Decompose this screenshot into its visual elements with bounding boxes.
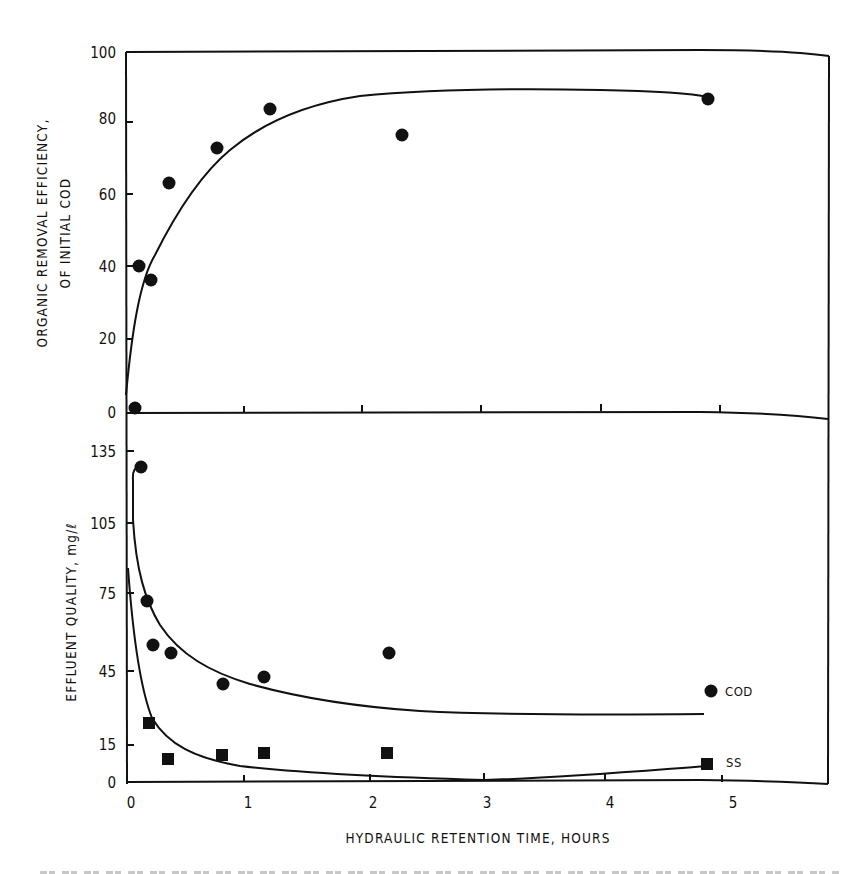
tick-label: 20 bbox=[99, 330, 116, 348]
ss-point bbox=[143, 717, 155, 729]
right-border bbox=[828, 56, 829, 784]
data-point bbox=[163, 177, 176, 190]
chart-frame bbox=[126, 50, 829, 784]
cod-point bbox=[147, 639, 160, 652]
tick-label: 60 bbox=[99, 186, 116, 204]
x-tick-labels: 0 1 2 3 4 5 bbox=[127, 794, 738, 812]
data-point bbox=[702, 93, 715, 106]
cod-data-points bbox=[135, 461, 718, 698]
cod-point bbox=[165, 647, 178, 660]
cod-point bbox=[258, 671, 271, 684]
tick-label: 1 bbox=[244, 794, 253, 812]
tick-label: 4 bbox=[606, 794, 615, 812]
tick-label: 75 bbox=[99, 585, 116, 603]
cod-point bbox=[141, 595, 154, 608]
data-point bbox=[133, 260, 146, 273]
tick-label: 80 bbox=[99, 110, 116, 128]
ss-series-label: SS bbox=[726, 755, 742, 770]
top-y-tick-labels: 0 20 40 60 80 100 bbox=[90, 44, 116, 422]
ss-point bbox=[162, 753, 174, 765]
tick-label: 45 bbox=[99, 663, 116, 681]
x-axis-title: HYDRAULIC RETENTION TIME, HOURS bbox=[345, 830, 610, 846]
top-y-axis-title-line1: ORGANIC REMOVAL EFFICIENCY, bbox=[34, 119, 50, 348]
top-y-axis-title-line2: OF INITIAL COD bbox=[57, 178, 73, 289]
data-point bbox=[211, 142, 224, 155]
chart-figure: 0 20 40 60 80 100 ORGANIC REMOVAL EFFICI… bbox=[0, 0, 856, 874]
ss-fitted-curve bbox=[128, 568, 707, 780]
cod-fitted-curve bbox=[133, 467, 704, 715]
ss-point bbox=[216, 749, 228, 761]
tick-label: 0 bbox=[107, 774, 116, 792]
cod-point bbox=[135, 461, 148, 474]
tick-label: 2 bbox=[369, 794, 378, 812]
cod-point bbox=[217, 678, 230, 691]
data-point bbox=[145, 274, 158, 287]
ss-point bbox=[258, 747, 270, 759]
tick-label: 15 bbox=[99, 736, 116, 754]
bottom-y-tick-labels: 0 15 45 75 105 135 bbox=[90, 443, 116, 792]
tick-label: 100 bbox=[90, 44, 116, 62]
tick-label: 5 bbox=[729, 794, 738, 812]
top-data-points bbox=[129, 93, 715, 415]
tick-label: 0 bbox=[107, 404, 116, 422]
panel-divider bbox=[126, 412, 828, 419]
tick-label: 3 bbox=[483, 794, 492, 812]
left-axis bbox=[126, 52, 127, 784]
data-point bbox=[264, 103, 277, 116]
data-point bbox=[396, 129, 409, 142]
top-border bbox=[126, 50, 829, 56]
tick-label: 135 bbox=[90, 443, 116, 461]
clipped-figure-caption bbox=[40, 866, 840, 874]
ss-point bbox=[701, 758, 713, 770]
bottom-y-axis-title: EFFLUENT QUALITY, mg/ℓ bbox=[63, 522, 79, 701]
ss-data-points bbox=[143, 717, 713, 770]
ss-point bbox=[381, 747, 393, 759]
tick-label: 0 bbox=[127, 794, 136, 812]
cod-point bbox=[705, 685, 718, 698]
cod-series-label: COD bbox=[725, 684, 753, 699]
tick-label: 105 bbox=[90, 515, 116, 533]
data-point bbox=[129, 402, 142, 415]
cod-point bbox=[383, 647, 396, 660]
tick-label: 40 bbox=[99, 258, 116, 276]
top-fitted-curve bbox=[126, 89, 708, 395]
